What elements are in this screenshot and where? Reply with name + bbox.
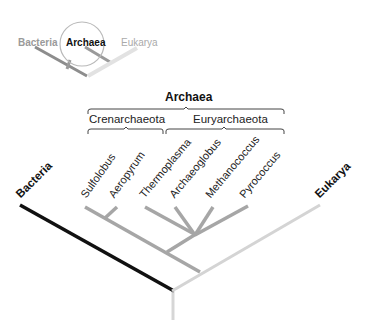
inset-tree [35, 22, 137, 76]
inset-eukarya-label: Eukarya [121, 37, 158, 48]
archaea-clade-label: Archaea [165, 90, 212, 104]
phylogeny-diagram: Bacteria Archaea Eukarya Archaea Crenarc… [0, 0, 367, 332]
euryarchaeota-label: Euryarchaeota [193, 113, 268, 125]
tree-lines [0, 0, 367, 332]
eukarya-branch [172, 205, 320, 291]
inset-bacteria-label: Bacteria [18, 37, 57, 48]
bacteria-branch [20, 205, 174, 291]
crenarchaeota-label: Crenarchaeota [89, 113, 165, 125]
inset-archaea-label: Archaea [66, 37, 105, 48]
